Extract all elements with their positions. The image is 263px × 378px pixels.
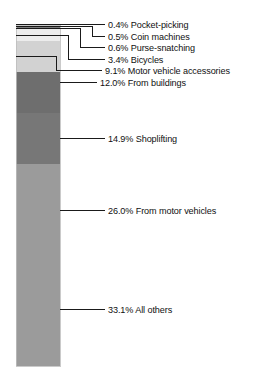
- bar-segment-from-motor-vehicles[interactable]: [16, 164, 60, 253]
- bar-segments: [16, 24, 60, 366]
- segment-label-pocket-picking: 0.4% Pocket-picking: [108, 20, 189, 30]
- bar-segment-all-others[interactable]: [16, 253, 60, 366]
- segment-label-motor-vehicle-accessories: 9.1% Motor vehicle accessories: [105, 66, 230, 76]
- segment-label-from-motor-vehicles: 26.0% From motor vehicles: [108, 206, 216, 216]
- segment-label-all-others: 33.1% All others: [108, 305, 172, 315]
- segment-label-coin-machines: 0.5% Coin machines: [108, 32, 190, 42]
- bar-segment-from-buildings[interactable]: [16, 72, 60, 113]
- segment-label-shoplifting: 14.9% Shoplifting: [108, 134, 177, 144]
- segment-label-from-buildings: 12.0% From buildings: [100, 78, 186, 88]
- bar-segment-shoplifting[interactable]: [16, 113, 60, 164]
- segment-label-purse-snatching: 0.6% Purse-snatching: [108, 43, 195, 53]
- stacked-bar-chart: 0.4% Pocket-picking 0.5% Coin machines 0…: [0, 0, 263, 378]
- segment-label-bicycles: 3.4% Bicycles: [108, 55, 163, 65]
